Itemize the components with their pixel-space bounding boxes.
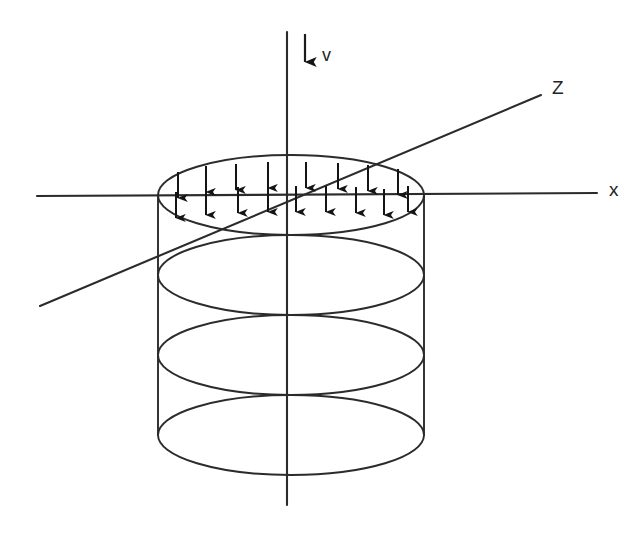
cylinder-load-diagram: x Z v bbox=[0, 0, 633, 535]
axis-group bbox=[37, 32, 597, 505]
cylinder-ring-bottom bbox=[158, 395, 424, 475]
cylinder-ring-second bbox=[158, 235, 424, 315]
z-axis-label: Z bbox=[552, 77, 564, 98]
distributed-load-arrows bbox=[176, 162, 408, 218]
cylinder-ring-third bbox=[158, 315, 424, 395]
x-axis-label: x bbox=[609, 179, 619, 200]
velocity-vector-label: v bbox=[322, 45, 331, 65]
figure-canvas: x Z v bbox=[0, 0, 633, 535]
z-axis bbox=[40, 95, 541, 306]
x-axis bbox=[37, 193, 597, 196]
